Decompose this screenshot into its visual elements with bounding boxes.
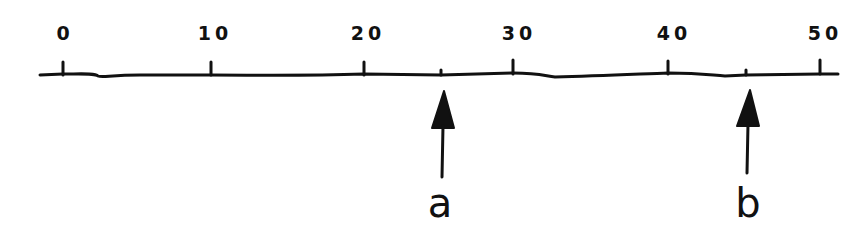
arrow-a-icon: [432, 91, 454, 177]
tick-label-10: 10: [198, 22, 232, 44]
tick-label-30: 30: [502, 22, 536, 44]
tick-label-40: 40: [657, 22, 691, 44]
point-label-b: b: [735, 180, 760, 226]
tick-label-50: 50: [808, 22, 842, 44]
arrow-b-icon: [737, 90, 759, 173]
point-label-a: a: [428, 180, 453, 226]
number-line-axis: [40, 73, 838, 77]
tick-label-0: 0: [56, 22, 73, 44]
tick-label-20: 20: [351, 22, 385, 44]
number-line-diagram: 0 10 20 30 40 50 a b: [0, 0, 866, 238]
